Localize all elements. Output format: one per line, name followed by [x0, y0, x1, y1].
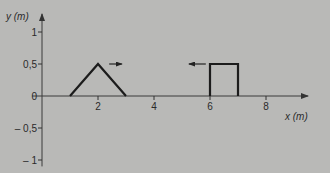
triangular-pulse: [70, 64, 126, 96]
x-tick-label: 8: [263, 101, 269, 112]
x-tick-label: 4: [151, 101, 157, 112]
y-tick-label: 0,5: [23, 59, 37, 70]
x-tick-label: 2: [95, 101, 101, 112]
y-tick-label: 1: [31, 27, 37, 38]
y-axis-label: y (m): [5, 11, 29, 22]
rectangular-pulse: [210, 64, 238, 96]
wave-pulses-chart: 246810,50– 0,5– 1 x (m) y (m): [0, 0, 330, 173]
x-axis-label: x (m): [284, 111, 308, 122]
x-tick-label: 6: [207, 101, 213, 112]
y-tick-label: – 0,5: [15, 123, 38, 134]
y-tick-label: 0: [31, 91, 37, 102]
y-tick-label: – 1: [23, 155, 37, 166]
axes: [32, 14, 308, 166]
pulses: [70, 64, 238, 96]
